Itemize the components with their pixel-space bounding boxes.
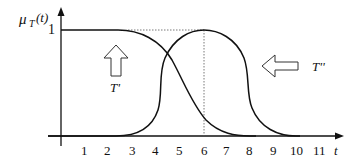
x-tick: 5 bbox=[176, 143, 183, 158]
x-tick: 2 bbox=[104, 143, 111, 158]
x-tick: 1 bbox=[81, 143, 88, 158]
y-axis-label: μ bbox=[18, 11, 27, 27]
t-double-prime-label: T'' bbox=[312, 59, 325, 74]
y-tick-1: 1 bbox=[48, 22, 55, 37]
x-tick: 8 bbox=[246, 143, 253, 158]
membership-function-chart: T' T'' μ T (t) 1 1 2 3 4 5 6 7 8 9 10 11… bbox=[0, 0, 361, 163]
x-tick: 10 bbox=[290, 143, 303, 158]
y-axis-label-arg: (t) bbox=[36, 10, 48, 25]
x-tick: 3 bbox=[129, 143, 136, 158]
t-prime-curve bbox=[61, 30, 256, 136]
y-axis-label-sub: T bbox=[29, 18, 36, 29]
x-tick: 11 bbox=[313, 143, 326, 158]
x-axis-label: t bbox=[334, 143, 338, 158]
x-axis-arrow-icon bbox=[335, 133, 344, 140]
x-tick: 7 bbox=[223, 143, 230, 158]
x-tick-labels: 1 2 3 4 5 6 7 8 9 10 11 bbox=[81, 143, 326, 158]
t-prime-arrow-icon bbox=[104, 45, 128, 76]
x-tick: 6 bbox=[201, 143, 208, 158]
x-tick: 9 bbox=[270, 143, 277, 158]
t-double-prime-curve bbox=[48, 30, 300, 136]
x-tick: 4 bbox=[152, 143, 159, 158]
t-prime-label: T' bbox=[110, 80, 120, 95]
y-axis-arrow-icon bbox=[58, 7, 65, 16]
t-double-prime-arrow-icon bbox=[262, 55, 298, 77]
